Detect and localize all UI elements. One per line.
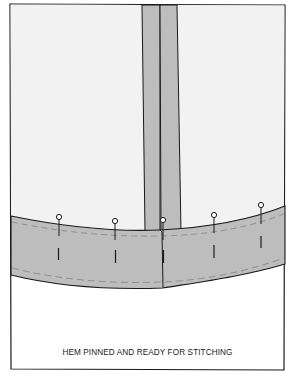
pin-head-icon — [160, 217, 165, 222]
pin-head-icon — [112, 218, 117, 223]
figure-caption: HEM PINNED AND READY FOR STITCHING — [10, 348, 285, 357]
pin-head-icon — [56, 214, 61, 219]
pin-head-icon — [211, 212, 216, 217]
seam-allowance-right — [160, 5, 181, 232]
seam-allowance-left — [142, 5, 160, 232]
pin-head-icon — [258, 202, 263, 207]
hem-diagram — [0, 0, 289, 376]
